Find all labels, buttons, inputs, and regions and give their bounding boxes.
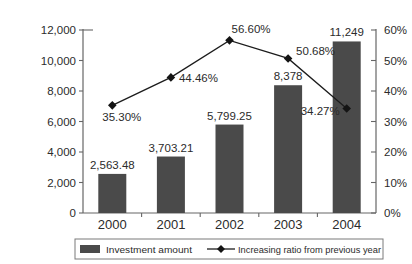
right-axis-tick-label: 40% [384, 85, 407, 97]
right-axis-tick-label: 0% [384, 207, 401, 219]
left-axis-tick-label: 6,000 [47, 116, 76, 128]
bar-2004 [333, 41, 361, 213]
ratio-value-label-2000: 35.30% [102, 111, 141, 123]
x-axis-label-2000: 2000 [98, 217, 127, 232]
diamond-marker-2000 [108, 101, 117, 110]
legend-line-label: Increasing ratio from previous year [238, 244, 381, 255]
bar-value-label-2003: 8,378 [274, 70, 303, 82]
bar-value-label-2000: 2,563.48 [90, 159, 135, 171]
bar-2003 [274, 85, 302, 213]
legend-diamond-icon [217, 245, 225, 253]
x-axis-label-2003: 2003 [274, 217, 303, 232]
left-axis-tick-label: 10,000 [41, 55, 76, 67]
right-axis-tick-label: 60% [384, 24, 407, 36]
ratio-value-label-2001: 44.46% [179, 72, 218, 84]
ratio-value-label-2003: 50.68% [296, 45, 335, 57]
diamond-marker-2002 [225, 36, 234, 45]
bar-2001 [157, 157, 185, 213]
left-axis-tick-label: 2,000 [47, 177, 76, 189]
right-axis-tick-label: 50% [384, 55, 407, 67]
bar-2002 [216, 125, 244, 213]
legend-bar-swatch-icon [80, 245, 100, 253]
x-axis-label-2002: 2002 [215, 217, 244, 232]
left-axis-tick-label: 8,000 [47, 85, 76, 97]
right-axis-tick-label: 20% [384, 146, 407, 158]
x-axis-label-2004: 2004 [332, 217, 361, 232]
left-axis-tick-label: 12,000 [41, 24, 76, 36]
legend-bar-label: Investment amount [106, 244, 192, 255]
bar-value-label-2004: 11,249 [330, 26, 364, 38]
ratio-value-label-2004: 34.27% [301, 105, 340, 117]
investment-ratio-chart: 02,0004,0006,0008,00010,00012,0000%10%20… [40, 16, 412, 264]
x-axis-label-2001: 2001 [156, 217, 185, 232]
bar-value-label-2001: 3,703.21 [149, 142, 194, 154]
left-axis-tick-label: 4,000 [47, 146, 76, 158]
right-axis-tick-label: 30% [384, 116, 407, 128]
right-axis-tick-label: 10% [384, 177, 407, 189]
bar-2000 [98, 174, 126, 213]
ratio-value-label-2002: 56.60% [232, 23, 271, 35]
diamond-marker-2001 [167, 73, 176, 82]
left-axis-tick-label: 0 [70, 207, 76, 219]
bar-value-label-2002: 5,799.25 [207, 110, 252, 122]
chart-canvas: 02,0004,0006,0008,00010,00012,0000%10%20… [40, 16, 412, 264]
